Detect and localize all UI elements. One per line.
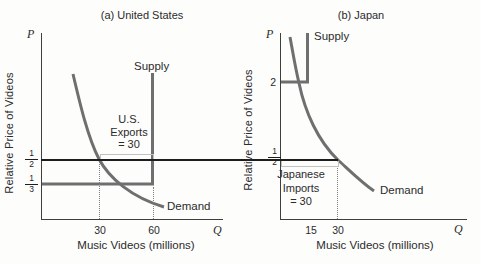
japan-world-price-fraction: 1 2 bbox=[268, 147, 281, 167]
us-quantity-axis-symbol: Q bbox=[213, 223, 222, 238]
japan-y-axis-label: Relative Price of Videos bbox=[242, 55, 256, 205]
japan-panel-title: (b) Japan bbox=[338, 9, 384, 21]
japan-imports-annotation-line2: Imports bbox=[277, 182, 325, 196]
japan-dotted-guide-30 bbox=[337, 166, 338, 219]
world-price-line bbox=[41, 159, 338, 161]
japan-demand-label: Demand bbox=[380, 184, 423, 196]
japan-tick-30: 30 bbox=[332, 224, 344, 236]
us-y-axis-label: Relative Price of Videos bbox=[3, 58, 17, 208]
japan-world-price-fraction-numerator: 1 bbox=[268, 147, 281, 158]
us-dotted-guide-60 bbox=[153, 187, 154, 219]
us-autarky-price-fraction-denominator: 3 bbox=[25, 185, 38, 195]
us-exports-annotation-line1: U.S. bbox=[110, 113, 147, 126]
us-autarky-price-fraction: 1 3 bbox=[25, 174, 38, 194]
us-exports-annotation-line2: Exports bbox=[110, 126, 147, 139]
japan-imports-annotation: Japanese Imports = 30 bbox=[277, 168, 325, 209]
japan-supply-label: Supply bbox=[314, 30, 349, 42]
us-y-axis bbox=[41, 33, 42, 219]
japan-x-axis-label: Music Videos (millions) bbox=[316, 239, 433, 251]
us-tick-60: 60 bbox=[148, 224, 160, 236]
figure-trade-supply-demand: (a) United States P Q Relative Price of … bbox=[0, 0, 481, 264]
us-exports-annotation-line3: = 30 bbox=[110, 138, 147, 151]
us-world-price-fraction-denominator: 2 bbox=[25, 160, 38, 170]
us-demand-label: Demand bbox=[167, 200, 210, 212]
us-dotted-guide-30 bbox=[99, 162, 100, 219]
us-exports-annotation: U.S. Exports = 30 bbox=[110, 113, 147, 151]
japan-world-price-fraction-denominator: 2 bbox=[268, 158, 281, 168]
curves-layer bbox=[0, 0, 481, 264]
japan-tick-15: 15 bbox=[305, 224, 317, 236]
japan-x-axis bbox=[280, 219, 467, 220]
japan-imports-bracket bbox=[281, 161, 339, 167]
us-tick-30: 30 bbox=[94, 224, 106, 236]
us-x-axis-label: Music Videos (millions) bbox=[77, 239, 194, 251]
japan-quantity-axis-symbol: Q bbox=[454, 222, 463, 237]
us-supply-label: Supply bbox=[134, 60, 169, 72]
us-panel-title: (a) United States bbox=[101, 9, 184, 21]
japan-price-axis-symbol: P bbox=[266, 27, 273, 42]
japan-imports-annotation-line3: = 30 bbox=[277, 195, 325, 209]
us-autarky-price-fraction-numerator: 1 bbox=[25, 174, 38, 185]
us-world-price-fraction: 1 2 bbox=[25, 149, 38, 169]
japan-autarky-price-label: 2 bbox=[270, 76, 276, 88]
us-x-axis bbox=[41, 219, 223, 220]
japan-imports-annotation-line1: Japanese bbox=[277, 168, 325, 182]
us-price-axis-symbol: P bbox=[27, 27, 34, 42]
us-world-price-fraction-numerator: 1 bbox=[25, 149, 38, 160]
